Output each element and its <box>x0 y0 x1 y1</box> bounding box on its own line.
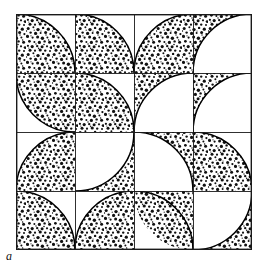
tile-r1c1 <box>75 73 134 132</box>
figure-container: a <box>0 0 266 275</box>
figure-label: a <box>6 250 12 262</box>
tile-r0c3 <box>193 14 252 73</box>
tile-r2c1 <box>75 132 134 191</box>
tile-r1c0 <box>16 73 75 132</box>
tile-r2c2 <box>134 132 193 191</box>
tile-r0c2 <box>134 14 193 73</box>
tile-r0c1 <box>75 14 134 73</box>
truchet-tiling-figure <box>0 0 266 275</box>
tile-r2c0 <box>16 132 75 191</box>
tile-r3c2 <box>134 191 193 250</box>
tile-r1c2 <box>134 73 193 132</box>
tile-r0c0 <box>16 14 75 73</box>
tile-r3c3 <box>193 191 252 250</box>
tile-r1c3 <box>193 73 252 132</box>
tile-r3c1 <box>75 191 134 250</box>
tile-r3c0 <box>16 191 75 250</box>
tile-r2c3 <box>193 132 252 191</box>
